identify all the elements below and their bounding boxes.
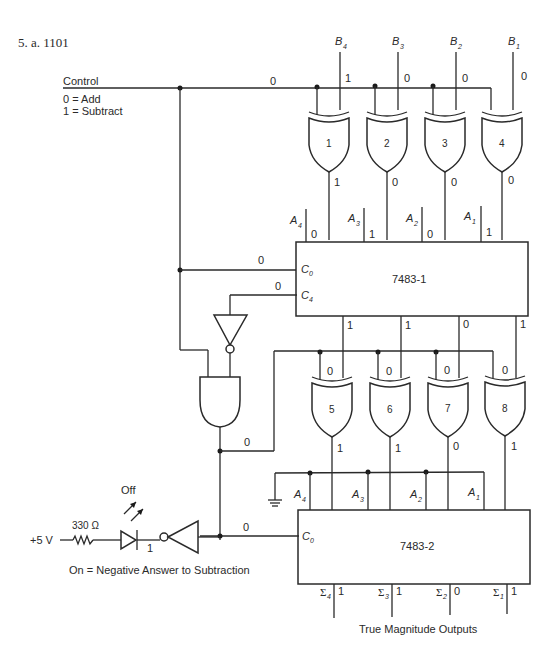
led-state-label: Off: [121, 484, 136, 496]
xor-gate-3-label: 3: [442, 138, 448, 149]
svg-text:Σ: Σ: [436, 586, 442, 598]
svg-text:2: 2: [457, 43, 462, 50]
xor-gate-2: [367, 112, 407, 240]
adder1-sum-4: 1: [347, 319, 353, 331]
svg-text:0: 0: [311, 228, 317, 240]
control-legend-add: 0 = Add: [63, 93, 101, 105]
svg-text:2: 2: [417, 496, 422, 503]
svg-text:Σ: Σ: [320, 586, 326, 598]
problem-label: 5. a. 1101: [18, 35, 69, 50]
adder2-a-inputs: A4 A3 A2 A1: [293, 486, 480, 503]
svg-text:0: 0: [404, 72, 410, 84]
svg-text:Σ: Σ: [378, 586, 384, 598]
xor-gate-1-label: 1: [326, 138, 332, 149]
svg-text:0: 0: [310, 537, 314, 544]
inverter-bubble: [226, 345, 234, 353]
svg-text:0: 0: [462, 72, 468, 84]
svg-text:3: 3: [356, 220, 360, 227]
svg-text:1: 1: [338, 585, 344, 597]
xor-gate-6-output: 1: [395, 442, 401, 454]
xor-gate-5-input: 0: [327, 365, 333, 377]
svg-text:A: A: [293, 488, 301, 500]
adder1-sum-2: 0: [463, 318, 469, 330]
outputs-caption: True Magnitude Outputs: [359, 623, 478, 635]
adder1-c0-value: 0: [258, 254, 264, 266]
xor-gate-7-label: 7: [445, 403, 451, 414]
svg-text:0: 0: [309, 270, 313, 277]
xor-gate-6-label: 6: [387, 404, 393, 415]
svg-text:1: 1: [396, 585, 402, 597]
xor-gate-1-output: 1: [334, 176, 340, 188]
xor-gate-4-output: 0: [508, 174, 514, 186]
resistor-icon: [73, 536, 93, 544]
and-output-value: 0: [244, 436, 250, 448]
svg-text:4: 4: [302, 496, 306, 503]
control-label: Control: [63, 75, 98, 87]
adder2-sum-outputs: Σ4 1 Σ3 1 Σ2 0 Σ1 1: [320, 584, 517, 618]
adder1-a-inputs: A4 0 A3 1 A2 0 A1 1: [289, 206, 492, 242]
xor-gate-4-label: 4: [499, 138, 505, 149]
svg-text:1: 1: [486, 226, 492, 238]
xor-gate-3-output: 0: [451, 176, 457, 188]
xor-gate-3: [425, 112, 465, 240]
xor-gate-8: [485, 376, 525, 511]
xor-gate-6: [370, 377, 410, 511]
led-icon: [121, 531, 136, 549]
adder2-c0-label: C: [302, 530, 310, 542]
svg-text:3: 3: [385, 593, 389, 600]
xor-gate-6-input: 0: [386, 365, 392, 377]
svg-text:1: 1: [511, 585, 517, 597]
led-driver-inverter: [168, 521, 198, 553]
xor-gate-7: [428, 377, 468, 511]
svg-text:0: 0: [521, 70, 527, 82]
svg-text:B: B: [508, 35, 515, 47]
xor-gate-2-output: 0: [392, 176, 398, 188]
svg-text:1: 1: [369, 228, 375, 240]
xor-gate-7-input: 0: [444, 364, 450, 376]
svg-text:1: 1: [472, 218, 476, 225]
svg-text:A: A: [351, 488, 359, 500]
svg-text:2: 2: [413, 220, 418, 227]
led-caption: On = Negative Answer to Subtraction: [69, 564, 250, 576]
svg-text:4: 4: [327, 593, 331, 600]
adder1-c0-label: C: [301, 263, 309, 275]
ground-bus: [275, 472, 484, 473]
junction-dot: [218, 534, 223, 539]
svg-text:4: 4: [298, 222, 302, 229]
resistor-label: 330 Ω: [72, 520, 99, 531]
ground-icon: [268, 500, 282, 506]
svg-text:2: 2: [442, 593, 447, 600]
xor-gate-8-output: 1: [511, 440, 517, 452]
svg-text:1: 1: [345, 72, 351, 84]
svg-text:B: B: [450, 35, 457, 47]
adder1-sum-1: 1: [520, 318, 526, 330]
b-inputs: B4 1 B3 0 B2 0 B1 0: [335, 35, 527, 110]
svg-text:4: 4: [309, 296, 313, 303]
svg-text:4: 4: [343, 43, 347, 50]
svg-text:3: 3: [360, 496, 364, 503]
xor-gate-4: [482, 112, 522, 240]
adder1-c4-value: 0: [275, 280, 281, 292]
adder1-c4-label: C: [301, 289, 309, 301]
xor-gate-5-label: 5: [329, 404, 335, 415]
svg-text:1: 1: [476, 494, 480, 501]
svg-text:A: A: [463, 210, 471, 222]
svg-text:A: A: [467, 486, 475, 498]
svg-text:0: 0: [427, 228, 433, 240]
inverter-output-value: 1: [147, 542, 153, 554]
adder2-c0-value: 0: [243, 521, 249, 533]
svg-text:1: 1: [500, 593, 504, 600]
xor-gate-8-input: 0: [502, 364, 508, 376]
svg-text:A: A: [289, 214, 297, 226]
svg-text:B: B: [335, 35, 342, 47]
c4-inverter: [214, 315, 247, 345]
svg-text:1: 1: [516, 43, 520, 50]
svg-text:B: B: [392, 35, 399, 47]
supply-label: +5 V: [30, 534, 54, 546]
light-emission-icon: [124, 502, 143, 521]
adder2-label: 7483-2: [400, 540, 434, 552]
xor-gate-5: [312, 377, 352, 511]
xor-gate-1: [309, 112, 349, 240]
svg-text:A: A: [405, 212, 413, 224]
svg-text:A: A: [409, 488, 417, 500]
